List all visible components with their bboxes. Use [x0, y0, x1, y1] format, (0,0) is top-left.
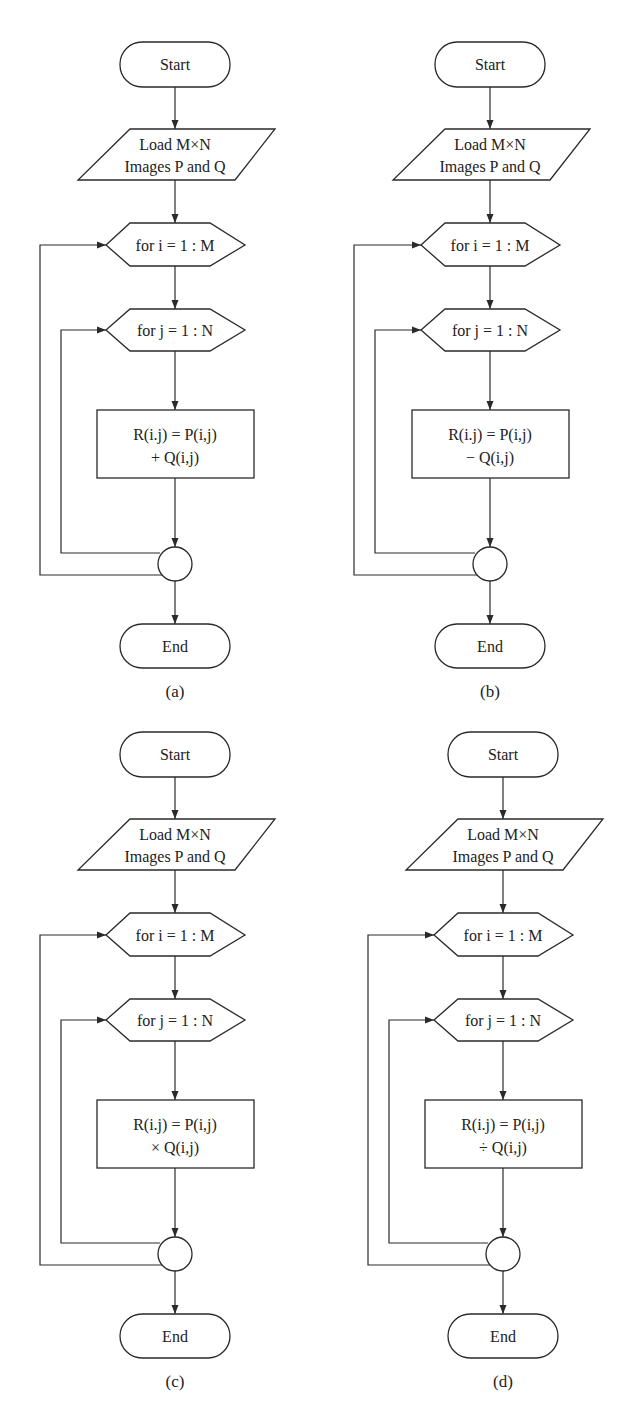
operation-line2: − Q(i,j): [466, 449, 514, 467]
end-label: End: [162, 1328, 188, 1345]
load-label-line1: Load M×N: [454, 136, 526, 153]
flowchart-panel-c: StartLoad M×NImages P and Qfor i = 1 : M…: [40, 732, 275, 1391]
loop-j-label: for j = 1 : N: [465, 1012, 542, 1030]
start-label: Start: [160, 56, 191, 73]
end-label: End: [477, 638, 503, 655]
operation-box: [412, 410, 569, 478]
operation-line2: × Q(i,j): [151, 1139, 199, 1157]
loop-i-label: for i = 1 : M: [464, 927, 543, 944]
operation-line1: R(i.j) = P(i,j): [133, 426, 217, 444]
panel-caption: (c): [166, 1372, 185, 1391]
load-label-line2: Images P and Q: [439, 158, 541, 176]
loop-i-label: for i = 1 : M: [136, 927, 215, 944]
end-label: End: [162, 638, 188, 655]
panel-caption: (a): [166, 682, 185, 701]
operation-line2: ÷ Q(i,j): [479, 1139, 527, 1157]
flowchart-panel-a: StartLoad M×NImages P and Qfor i = 1 : M…: [40, 42, 275, 701]
operation-line2: + Q(i,j): [151, 449, 199, 467]
loop-j-label: for j = 1 : N: [137, 322, 214, 340]
operation-line1: R(i.j) = P(i,j): [461, 1116, 545, 1134]
panel-caption: (d): [493, 1372, 513, 1391]
load-label-line2: Images P and Q: [124, 848, 226, 866]
end-label: End: [490, 1328, 516, 1345]
start-label: Start: [475, 56, 506, 73]
operation-box: [425, 1100, 582, 1168]
load-label-line1: Load M×N: [467, 826, 539, 843]
loop-i-label: for i = 1 : M: [136, 237, 215, 254]
operation-box: [97, 1100, 254, 1168]
flowchart-panel-d: StartLoad M×NImages P and Qfor i = 1 : M…: [368, 732, 603, 1391]
loop-i-label: for i = 1 : M: [451, 237, 530, 254]
flowchart-panel-b: StartLoad M×NImages P and Qfor i = 1 : M…: [354, 42, 590, 701]
panel-caption: (b): [480, 682, 500, 701]
load-label-line1: Load M×N: [139, 826, 211, 843]
load-label-line2: Images P and Q: [452, 848, 554, 866]
start-label: Start: [488, 746, 519, 763]
operation-line1: R(i.j) = P(i,j): [448, 426, 532, 444]
operation-box: [97, 410, 254, 478]
load-label-line2: Images P and Q: [124, 158, 226, 176]
flowchart-figure: StartLoad M×NImages P and Qfor i = 1 : M…: [0, 0, 637, 1422]
operation-line1: R(i.j) = P(i,j): [133, 1116, 217, 1134]
loop-j-label: for j = 1 : N: [137, 1012, 214, 1030]
load-label-line1: Load M×N: [139, 136, 211, 153]
loop-j-label: for j = 1 : N: [452, 322, 529, 340]
connector-circle: [473, 547, 507, 581]
connector-circle: [158, 547, 192, 581]
connector-circle: [158, 1237, 192, 1271]
connector-circle: [486, 1237, 520, 1271]
start-label: Start: [160, 746, 191, 763]
